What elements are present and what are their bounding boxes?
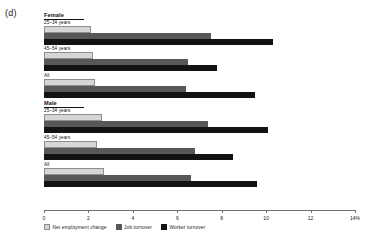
bar-stack [44,26,355,46]
bar-net [44,52,93,59]
bar-group-label: 25–34 years [44,20,70,25]
x-axis-tick [266,210,267,213]
bar-group-label: All [44,73,49,78]
x-axis-tick-label: 6 [176,215,179,221]
bar-stack [44,52,355,72]
x-axis-tick [222,210,223,213]
bar-worker [44,65,217,71]
figure-panel-d: (d) Female25–34 years45–54 yearsAllMale2… [0,0,372,239]
bar-net [44,114,102,121]
legend-item-net: Net employment change [44,224,107,230]
legend-swatch-worker [161,224,167,230]
section-header-male: Male [44,100,84,108]
bar-worker [44,181,257,187]
x-axis-tick-label: 10 [263,215,269,221]
bar-group-label: 25–34 years [44,108,70,113]
bar-net [44,141,97,148]
x-axis-tick-label: 14% [350,215,360,221]
x-axis-tick [44,210,45,213]
bar-stack [44,114,355,134]
bar-group-label: 45–54 years [44,46,70,51]
x-axis-tick-label: 2 [87,215,90,221]
legend-item-job: Job turnover [116,224,152,230]
legend-label-worker: Worker turnover [169,225,205,230]
legend-swatch-net [44,224,50,230]
bar-stack [44,141,355,161]
bar-worker [44,39,273,45]
bar-group-label: All [44,162,49,167]
x-axis-tick [177,210,178,213]
panel-letter: (d) [5,8,17,18]
legend-item-worker: Worker turnover [161,224,205,230]
x-axis-tick [133,210,134,213]
x-axis-tick-label: 8 [220,215,223,221]
x-axis-tick [311,210,312,213]
chart-legend: Net employment changeJob turnoverWorker … [44,224,205,230]
bar-worker [44,154,233,160]
x-axis-tick-label: 0 [43,215,46,221]
x-axis-tick-label: 12 [308,215,314,221]
bar-stack [44,168,355,188]
bar-net [44,79,95,86]
legend-label-job: Job turnover [124,225,152,230]
bar-group-label: 45–54 years [44,135,70,140]
legend-label-net: Net employment change [53,225,107,230]
bar-worker [44,127,268,133]
bar-worker [44,92,255,98]
legend-swatch-job [116,224,122,230]
plot-area: Female25–34 years45–54 yearsAllMale25–34… [44,12,355,208]
x-axis-tick [355,210,356,213]
bar-net [44,26,91,33]
x-axis-tick-label: 4 [131,215,134,221]
section-header-female: Female [44,12,84,20]
x-axis: 02468101214% [44,210,355,211]
bar-stack [44,79,355,99]
bar-net [44,168,104,175]
x-axis-tick [88,210,89,213]
